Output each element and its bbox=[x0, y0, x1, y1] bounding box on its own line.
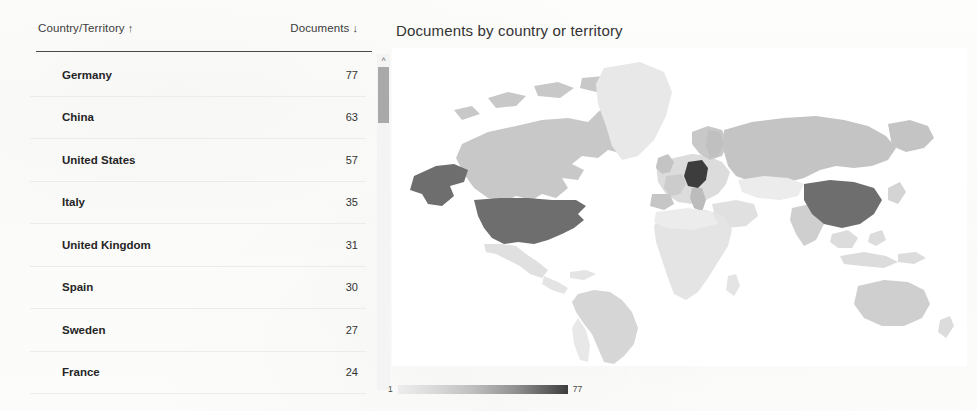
legend-max-value: 77 bbox=[573, 385, 582, 394]
choropleth-map[interactable] bbox=[392, 48, 967, 366]
cell-documents: 77 bbox=[346, 69, 358, 81]
country-documents-table: Country/Territory↑ Documents↓ Germany 77… bbox=[30, 18, 382, 390]
legend-gradient-bar bbox=[398, 385, 568, 394]
table-row[interactable]: United States 57 bbox=[30, 139, 366, 182]
map-title: Documents by country or territory bbox=[396, 22, 623, 39]
sort-descending-icon[interactable]: ↓ bbox=[352, 22, 358, 34]
cell-country: United States bbox=[62, 154, 136, 166]
legend-min-value: 1 bbox=[388, 385, 393, 394]
table-row[interactable]: Sweden 27 bbox=[30, 309, 366, 352]
cell-documents: 57 bbox=[346, 154, 358, 166]
cell-documents: 31 bbox=[346, 239, 358, 251]
column-header-documents[interactable]: Documents↓ bbox=[290, 22, 358, 34]
cell-country: Spain bbox=[62, 281, 93, 293]
cell-country: China bbox=[62, 111, 94, 123]
cell-country: Italy bbox=[62, 196, 85, 208]
cell-documents: 63 bbox=[346, 111, 358, 123]
cell-country: France bbox=[62, 366, 100, 378]
table-header-row: Country/Territory↑ Documents↓ bbox=[30, 18, 382, 48]
table-row[interactable]: United Kingdom 31 bbox=[30, 224, 366, 267]
cell-country: Sweden bbox=[62, 324, 105, 336]
scroll-up-icon[interactable]: ˄ bbox=[377, 54, 390, 65]
cell-documents: 35 bbox=[346, 196, 358, 208]
table-row[interactable]: China 63 bbox=[30, 97, 366, 140]
table-scrollbar[interactable]: ˄ bbox=[377, 54, 390, 390]
cell-documents: 30 bbox=[346, 281, 358, 293]
table-row[interactable]: Germany 77 bbox=[30, 54, 366, 97]
map-color-legend: 1 77 bbox=[388, 385, 582, 394]
header-divider bbox=[36, 51, 372, 52]
column-header-country-label: Country/Territory bbox=[38, 22, 125, 34]
scrollbar-thumb[interactable] bbox=[378, 67, 389, 123]
table-row[interactable]: France 24 bbox=[30, 352, 366, 395]
table-row[interactable]: Italy 35 bbox=[30, 182, 366, 225]
column-header-country[interactable]: Country/Territory↑ bbox=[38, 22, 133, 34]
column-header-documents-label: Documents bbox=[290, 22, 349, 34]
cell-documents: 27 bbox=[346, 324, 358, 336]
cell-country: United Kingdom bbox=[62, 239, 151, 251]
world-map-panel: Documents by country or territory bbox=[392, 18, 967, 398]
table-body: Germany 77 China 63 United States 57 Ita… bbox=[30, 54, 366, 390]
cell-documents: 24 bbox=[346, 366, 358, 378]
sort-ascending-icon[interactable]: ↑ bbox=[128, 22, 134, 34]
cell-country: Germany bbox=[62, 69, 112, 81]
table-row[interactable]: Spain 30 bbox=[30, 267, 366, 310]
